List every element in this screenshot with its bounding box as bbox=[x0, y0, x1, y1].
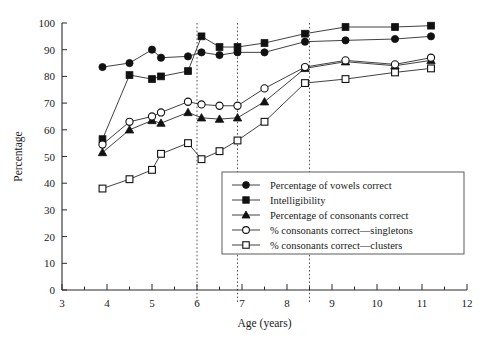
data-point-s3-6 bbox=[197, 114, 205, 121]
x-tick-label: 9 bbox=[329, 297, 335, 309]
data-point-s4-12 bbox=[391, 61, 398, 68]
y-tick-label: 80 bbox=[44, 70, 56, 82]
data-point-s2-6 bbox=[198, 33, 205, 40]
line-chart: 01020304050607080901003456789101112Age (… bbox=[0, 0, 495, 342]
y-tick-label: 40 bbox=[44, 177, 56, 189]
x-tick-label: 12 bbox=[462, 297, 473, 309]
data-point-s4-5 bbox=[184, 98, 191, 105]
data-point-s4-4 bbox=[157, 109, 164, 116]
data-point-s5-5 bbox=[185, 140, 192, 147]
y-tick-label: 100 bbox=[39, 17, 56, 29]
data-point-s2-2 bbox=[126, 72, 133, 79]
data-point-s3-5 bbox=[184, 108, 192, 115]
x-tick-label: 3 bbox=[59, 297, 65, 309]
legend-marker-open-circle bbox=[243, 227, 250, 234]
data-point-s5-8 bbox=[234, 137, 241, 144]
x-axis-title: Age (years) bbox=[238, 317, 292, 330]
data-point-s2-12 bbox=[392, 24, 399, 31]
y-tick-label: 60 bbox=[44, 124, 56, 136]
legend-marker-filled-circle bbox=[243, 182, 250, 189]
data-point-s1-13 bbox=[427, 33, 434, 40]
data-point-s1-5 bbox=[184, 53, 191, 60]
data-point-s2-9 bbox=[261, 40, 268, 47]
legend-label-2: Intelligibility bbox=[270, 195, 326, 206]
y-tick-label: 0 bbox=[50, 284, 56, 296]
data-point-s2-8 bbox=[234, 44, 241, 51]
legend-label-3: Percentage of consonants correct bbox=[270, 210, 409, 221]
data-point-s5-10 bbox=[302, 80, 309, 87]
data-point-s5-7 bbox=[216, 148, 223, 155]
data-point-s1-10 bbox=[301, 38, 308, 45]
y-tick-label: 10 bbox=[44, 257, 56, 269]
data-point-s2-11 bbox=[342, 24, 349, 31]
data-point-s1-1 bbox=[99, 63, 106, 70]
data-point-s2-10 bbox=[302, 30, 309, 37]
data-point-s4-3 bbox=[148, 113, 155, 120]
data-point-s2-5 bbox=[185, 68, 192, 75]
legend-marker-open-square bbox=[243, 242, 249, 248]
data-point-s3-9 bbox=[260, 98, 268, 105]
legend-label-4: % consonants correct—singletons bbox=[270, 225, 413, 236]
data-point-s5-9 bbox=[261, 118, 268, 125]
y-tick-label: 20 bbox=[44, 231, 56, 243]
data-point-s5-4 bbox=[158, 150, 165, 157]
data-point-s3-2 bbox=[125, 126, 133, 133]
data-point-s4-1 bbox=[99, 141, 106, 148]
x-tick-label: 4 bbox=[104, 297, 110, 309]
legend-label-5: % consonants correct—clusters bbox=[270, 240, 402, 251]
data-point-s1-4 bbox=[157, 54, 164, 61]
data-point-s4-9 bbox=[261, 85, 268, 92]
data-point-s5-13 bbox=[428, 65, 435, 72]
data-point-s1-11 bbox=[342, 37, 349, 44]
legend-marker-filled-square bbox=[243, 197, 249, 203]
data-point-s5-2 bbox=[126, 176, 133, 183]
y-tick-label: 90 bbox=[44, 44, 56, 56]
data-point-s5-11 bbox=[342, 76, 349, 83]
chart-container: 01020304050607080901003456789101112Age (… bbox=[0, 0, 495, 342]
data-point-s4-7 bbox=[216, 102, 223, 109]
data-point-s4-11 bbox=[342, 57, 349, 64]
x-tick-label: 5 bbox=[149, 297, 155, 309]
y-tick-label: 70 bbox=[44, 97, 56, 109]
data-point-s3-8 bbox=[233, 114, 241, 121]
data-point-s1-7 bbox=[216, 51, 223, 58]
data-point-s5-1 bbox=[99, 185, 106, 192]
data-point-s1-12 bbox=[391, 35, 398, 42]
data-point-s1-2 bbox=[126, 59, 133, 66]
data-point-s4-10 bbox=[301, 63, 308, 70]
y-tick-label: 30 bbox=[44, 204, 56, 216]
data-point-s5-6 bbox=[198, 156, 205, 163]
x-tick-label: 8 bbox=[284, 297, 290, 309]
data-point-s1-9 bbox=[261, 49, 268, 56]
x-tick-label: 11 bbox=[417, 297, 428, 309]
legend-label-1: Percentage of vowels correct bbox=[270, 180, 392, 191]
data-point-s2-7 bbox=[216, 44, 223, 51]
data-point-s4-6 bbox=[198, 101, 205, 108]
data-point-s4-8 bbox=[234, 102, 241, 109]
x-tick-label: 6 bbox=[194, 297, 200, 309]
data-point-s4-2 bbox=[126, 118, 133, 125]
data-point-s5-3 bbox=[149, 166, 156, 173]
x-tick-label: 10 bbox=[372, 297, 384, 309]
data-point-s1-6 bbox=[198, 49, 205, 56]
data-point-s2-3 bbox=[149, 76, 156, 83]
data-point-s4-13 bbox=[427, 54, 434, 61]
y-axis-title: Percentage bbox=[12, 131, 25, 181]
data-point-s2-13 bbox=[428, 22, 435, 29]
data-point-s5-12 bbox=[392, 69, 399, 76]
data-point-s3-1 bbox=[98, 148, 106, 155]
data-point-s2-4 bbox=[158, 73, 165, 80]
data-point-s1-3 bbox=[148, 46, 155, 53]
y-tick-label: 50 bbox=[44, 151, 56, 163]
x-tick-label: 7 bbox=[239, 297, 245, 309]
